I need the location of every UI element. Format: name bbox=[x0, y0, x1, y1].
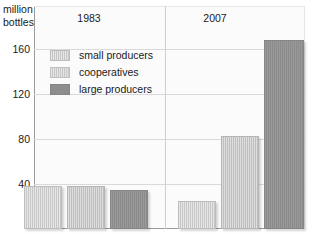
bar-2007-cooperatives bbox=[221, 136, 259, 229]
legend-swatch-small-producers-icon bbox=[50, 50, 70, 61]
legend-swatch-large-producers-icon bbox=[50, 84, 70, 95]
legend-item-cooperatives: cooperatives bbox=[50, 65, 153, 80]
bar-chart: million bottles 160 120 80 40 1983 2007 … bbox=[0, 0, 311, 237]
group-separator bbox=[165, 6, 166, 229]
group-label-2007: 2007 bbox=[188, 12, 242, 24]
bar-1983-cooperatives bbox=[67, 186, 105, 229]
y-axis-tick-160: 160 bbox=[0, 44, 30, 55]
group-label-1983: 1983 bbox=[62, 12, 116, 24]
legend-item-small-producers: small producers bbox=[50, 48, 153, 63]
legend-label-large-producers: large producers bbox=[79, 84, 152, 95]
bar-2007-large-producers bbox=[264, 40, 304, 229]
y-axis-title: million bottles bbox=[3, 3, 63, 28]
legend-label-small-producers: small producers bbox=[79, 50, 153, 61]
y-axis-title-line2: bottles bbox=[3, 16, 63, 29]
y-axis-title-line1: million bbox=[3, 3, 63, 16]
y-axis-tick-120: 120 bbox=[0, 89, 30, 100]
bar-1983-large-producers bbox=[110, 190, 148, 229]
y-axis-tick-80: 80 bbox=[0, 134, 30, 145]
bar-1983-small-producers bbox=[24, 186, 62, 229]
bar-2007-small-producers bbox=[178, 201, 216, 229]
legend-label-cooperatives: cooperatives bbox=[79, 67, 139, 78]
legend-swatch-cooperatives-icon bbox=[50, 67, 70, 78]
legend: small producers cooperatives large produ… bbox=[50, 48, 153, 99]
legend-item-large-producers: large producers bbox=[50, 82, 153, 97]
